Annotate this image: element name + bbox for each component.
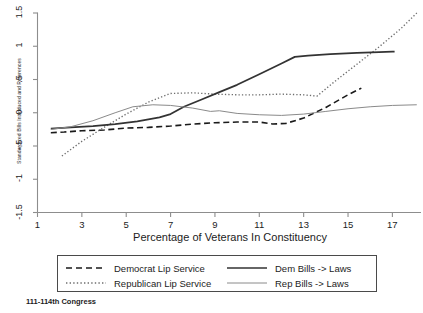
- legend-item-republican-lip-service[interactable]: Republican Lip Service: [65, 276, 211, 290]
- solid-line-icon: [226, 263, 268, 273]
- x-tick-label: 3: [72, 219, 92, 230]
- y-tick-label: 1.5: [14, 0, 24, 25]
- x-tick-label: 11: [249, 219, 269, 230]
- x-tick-label: 13: [294, 219, 314, 230]
- x-axis-title: Percentage of Veterans In Constituency: [37, 231, 423, 243]
- chart-figure: Standardized Bills Introduced and Refere…: [0, 0, 423, 313]
- legend: Democrat Lip Service Republican Lip Serv…: [57, 255, 377, 292]
- y-tick-label: 0: [14, 99, 24, 125]
- x-tick-label: 5: [116, 219, 136, 230]
- y-tick-label: .5: [14, 66, 24, 92]
- dotted-line-icon: [65, 278, 107, 288]
- solid-thin-line-icon: [226, 278, 268, 288]
- legend-item-democrat-lip-service[interactable]: Democrat Lip Service: [65, 261, 205, 275]
- legend-label: Rep Bills -> Laws: [275, 278, 349, 289]
- y-tick-label: 1: [14, 32, 24, 58]
- legend-item-dem-bills-laws[interactable]: Dem Bills -> Laws: [226, 261, 351, 275]
- x-tick-label: 15: [338, 219, 358, 230]
- y-tick-label: -1: [14, 165, 24, 191]
- dashed-line-icon: [65, 263, 107, 273]
- legend-item-rep-bills-laws[interactable]: Rep Bills -> Laws: [226, 276, 349, 290]
- x-tick-label: 9: [205, 219, 225, 230]
- figure-footnote: 111-114th Congress: [26, 297, 96, 306]
- x-tick-label: 17: [382, 219, 402, 230]
- legend-label: Democrat Lip Service: [114, 263, 205, 274]
- legend-label: Republican Lip Service: [114, 278, 211, 289]
- y-tick-label: -.5: [14, 132, 24, 158]
- y-tick-label: -1.5: [14, 199, 24, 225]
- x-tick-label: 1: [28, 219, 48, 230]
- x-tick-label: 7: [161, 219, 181, 230]
- legend-label: Dem Bills -> Laws: [275, 263, 351, 274]
